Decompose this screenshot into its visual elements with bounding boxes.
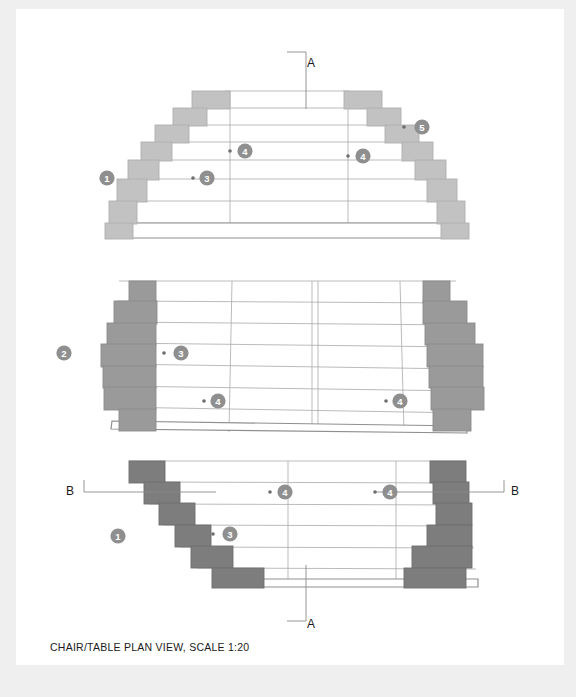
plan-view-bottom bbox=[129, 461, 478, 589]
callout-anchor-dot bbox=[346, 154, 350, 158]
middle-view-steps-right bbox=[423, 281, 484, 431]
callout-anchor-dot bbox=[211, 532, 215, 536]
callout-number: 4 bbox=[282, 487, 288, 498]
callout-anchor-dot bbox=[373, 490, 377, 494]
plan-view-top bbox=[105, 91, 469, 239]
section-marker-b-right: B bbox=[511, 484, 519, 498]
technical-drawing-canvas: 1344523441344 bbox=[16, 9, 564, 665]
top-view-body bbox=[111, 91, 463, 239]
middle-view-steps-left bbox=[101, 281, 157, 431]
callout-number: 3 bbox=[204, 173, 209, 184]
callout-number: 1 bbox=[104, 173, 110, 184]
callout-1-top[interactable]: 1 bbox=[99, 170, 114, 185]
callout-number: 3 bbox=[178, 348, 183, 359]
callout-number: 1 bbox=[115, 531, 121, 542]
section-marker-a-bottom: A bbox=[307, 617, 315, 631]
callout-anchor-dot bbox=[162, 351, 166, 355]
drawing-sheet: 1344523441344 A A B B CHAIR/TABLE PLAN V… bbox=[16, 9, 564, 665]
callout-number: 4 bbox=[360, 151, 366, 162]
callout-2-middle[interactable]: 2 bbox=[56, 345, 71, 360]
callout-number: 4 bbox=[242, 146, 248, 157]
callout-anchor-dot bbox=[384, 399, 388, 403]
top-view-base-band bbox=[115, 223, 460, 238]
callout-anchor-dot bbox=[202, 399, 206, 403]
plan-view-middle bbox=[101, 281, 484, 433]
callout-anchor-dot bbox=[191, 176, 195, 180]
callout-anchor-dot bbox=[268, 490, 272, 494]
callout-number: 2 bbox=[61, 348, 66, 359]
callout-number: 5 bbox=[419, 122, 425, 133]
callout-anchor-dot bbox=[402, 125, 406, 129]
section-marker-b-left: B bbox=[66, 484, 74, 498]
callout-1-bottom[interactable]: 1 bbox=[110, 528, 125, 543]
callout-number: 4 bbox=[215, 396, 221, 407]
drawing-caption: CHAIR/TABLE PLAN VIEW, SCALE 1:20 bbox=[50, 641, 249, 653]
callout-number: 4 bbox=[387, 487, 393, 498]
callout-number: 3 bbox=[227, 529, 232, 540]
section-marker-a-top: A bbox=[307, 56, 315, 70]
callout-number: 4 bbox=[397, 396, 403, 407]
callout-anchor-dot bbox=[228, 149, 232, 153]
